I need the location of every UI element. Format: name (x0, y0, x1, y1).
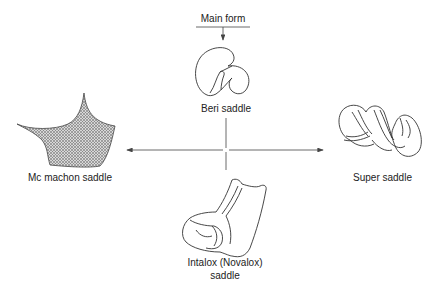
intalox-saddle-label-line1: Intalox (Novalox) (170, 257, 280, 269)
beri-saddle-shape (196, 48, 249, 96)
mcmachon-saddle-label: Mc machon saddle (15, 172, 125, 184)
mcmachon-saddle-shape (17, 93, 115, 167)
intalox-saddle-shape (183, 179, 267, 257)
super-saddle-label: Super saddle (340, 172, 425, 184)
main-form-label: Main form (196, 13, 250, 25)
saddle-diagram (0, 0, 433, 286)
intalox-saddle-label-line2: saddle (170, 270, 280, 282)
super-saddle-shape (339, 105, 421, 156)
beri-saddle-label: Beri saddle (186, 103, 266, 115)
